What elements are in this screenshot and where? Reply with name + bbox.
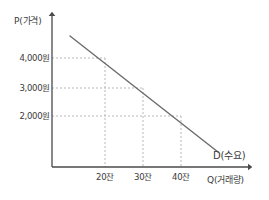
x-tick-label-20: 20잔 — [89, 173, 121, 182]
x-tick-label-40: 40잔 — [165, 173, 197, 182]
vertical-guide-lines — [105, 58, 181, 167]
y-tick-label-4000: 4,000원 — [6, 54, 50, 63]
y-tick-label-3000: 3,000원 — [6, 84, 50, 93]
x-axis-label: Q(거래량) — [207, 176, 244, 185]
chart-plot-area — [0, 0, 269, 200]
demand-curve-line — [70, 36, 218, 152]
demand-curve-figure: P(가격) Q(거래량) D(수요) 4,000원 3,000원 2,000원 … — [0, 0, 269, 200]
y-tick-label-2000: 2,000원 — [6, 112, 50, 121]
y-axis-label: P(가격) — [14, 17, 41, 26]
x-tick-label-30: 30잔 — [127, 173, 159, 182]
demand-curve-label: D(수요) — [213, 151, 246, 161]
